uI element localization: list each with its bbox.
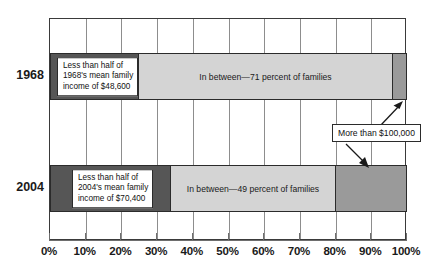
bar-1968-low-callout-line3: income of $48,600 [63,82,133,93]
stacked-bar-chart: In between—71 percent of families Less t… [0,0,438,279]
x-tick-100 [406,233,407,241]
bar-1968-segment-mid: In between—71 percent of families [139,53,392,100]
x-tick-70 [299,233,300,241]
bar-1968-low-callout: Less than half of 1968's mean family inc… [57,57,138,97]
bar-2004: In between—49 percent of families Less t… [50,165,407,212]
x-tick-30 [156,233,157,241]
x-tick-0 [49,233,50,241]
bar-1968-mid-label: In between—71 percent of families [139,72,391,82]
x-tick-label-50: 50% [216,245,238,257]
bar-2004-low-callout-line3: income of $70,400 [78,194,148,205]
x-tick-90 [370,233,371,241]
bar-1968-low-callout-line1: Less than half of [63,61,133,72]
annotation-label: More than $100,000 [338,128,415,138]
bar-2004-segment-mid: In between—49 percent of families [171,165,335,212]
x-tick-40 [192,233,193,241]
bar-2004-segment-high [336,165,407,212]
x-tick-label-40: 40% [181,245,203,257]
x-tick-label-60: 60% [252,245,274,257]
y-tick-label-2004: 2004 [8,180,44,194]
x-tick-label-90: 90% [359,245,381,257]
annotation-arrow-down [344,142,374,170]
y-tick-label-1968: 1968 [8,68,44,82]
bar-2004-low-callout-line2: 2004's mean family [78,183,148,194]
x-tick-label-100: 100% [392,245,421,257]
x-tick-label-80: 80% [323,245,345,257]
x-tick-50 [228,233,229,241]
x-tick-label-10: 10% [73,245,95,257]
x-tick-label-20: 20% [109,245,131,257]
x-tick-20 [120,233,121,241]
x-tick-80 [335,233,336,241]
bar-2004-mid-label: In between—49 percent of families [171,184,334,194]
annotation-more-than-100000: More than $100,000 [332,124,421,142]
bar-2004-low-callout: Less than half of 2004's mean family inc… [72,169,153,209]
x-tick-60 [263,233,264,241]
x-tick-label-0: 0% [41,245,57,257]
x-tick-10 [85,233,86,241]
x-tick-label-70: 70% [288,245,310,257]
bar-1968-low-callout-line2: 1968's mean family [63,71,133,82]
bar-1968: In between—71 percent of families Less t… [50,53,407,100]
bar-2004-low-callout-line1: Less than half of [78,173,148,184]
bar-1968-segment-high [393,53,407,100]
x-tick-label-30: 30% [145,245,167,257]
